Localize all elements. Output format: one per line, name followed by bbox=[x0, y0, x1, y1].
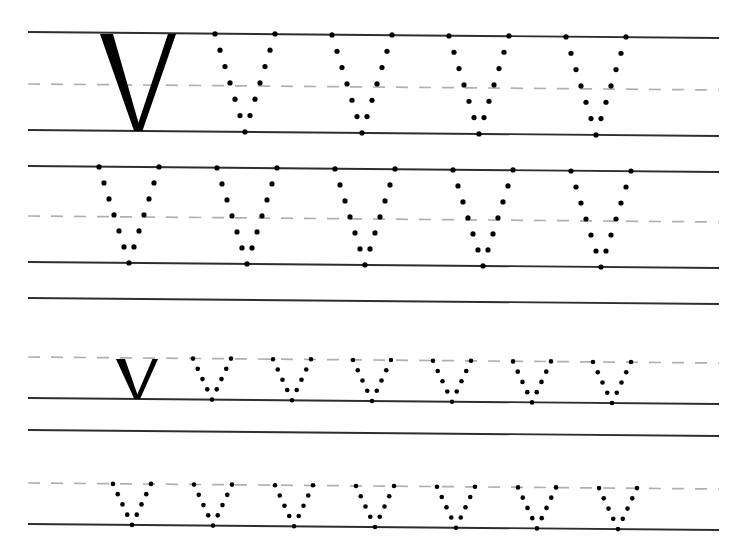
guide-dot bbox=[349, 98, 354, 103]
row-4-lowercase-practice bbox=[111, 482, 640, 532]
dotted-letter-guide bbox=[450, 167, 515, 268]
guide-dot bbox=[466, 99, 471, 104]
guide-dot-apex bbox=[370, 399, 375, 404]
guide-dot bbox=[369, 98, 374, 103]
guide-dot bbox=[613, 216, 618, 221]
guide-dot bbox=[106, 196, 111, 201]
guide-dot bbox=[374, 388, 379, 393]
guide-dot bbox=[294, 388, 299, 393]
guide-dot bbox=[252, 97, 257, 102]
guide-dot bbox=[337, 182, 342, 187]
guide-dot bbox=[229, 213, 234, 218]
guide-dot bbox=[389, 32, 394, 37]
guide-dot bbox=[247, 113, 252, 118]
guide-dot bbox=[311, 483, 316, 488]
guide-dot bbox=[272, 31, 277, 36]
guide-dot bbox=[384, 368, 389, 373]
worksheet-page bbox=[0, 0, 743, 541]
guide-dot bbox=[473, 484, 478, 489]
guide-dot bbox=[618, 200, 623, 205]
guide-dot bbox=[520, 380, 525, 385]
guide-dot bbox=[608, 232, 613, 237]
dotted-letter-guide bbox=[568, 168, 633, 269]
guide-dot bbox=[611, 517, 616, 522]
guide-dot bbox=[332, 166, 337, 171]
guide-dot bbox=[465, 215, 470, 220]
guide-dot bbox=[593, 248, 598, 253]
guide-dot bbox=[334, 49, 339, 54]
guide-dot bbox=[131, 244, 136, 249]
guide-dot bbox=[120, 502, 125, 507]
guide-dot bbox=[192, 482, 197, 487]
guide-dot bbox=[454, 389, 459, 394]
dotted-letter-guide bbox=[273, 483, 316, 529]
guide-dot bbox=[481, 115, 486, 120]
guide-dot bbox=[287, 514, 292, 519]
guide-dot bbox=[384, 49, 389, 54]
guide-dot bbox=[306, 493, 311, 498]
guide-dot bbox=[262, 64, 267, 69]
guide-dot-apex bbox=[598, 264, 603, 269]
guide-dot bbox=[219, 181, 224, 186]
guide-dot bbox=[237, 113, 242, 118]
guide-dot bbox=[116, 228, 121, 233]
guide-dot bbox=[534, 390, 539, 395]
guide-dot bbox=[628, 168, 633, 173]
guide-dot bbox=[215, 513, 220, 518]
guide-dot bbox=[459, 379, 464, 384]
dotted-letter-guide bbox=[354, 484, 397, 530]
guide-dot bbox=[435, 369, 440, 374]
guide-dot bbox=[269, 181, 274, 186]
guide-dot-apex bbox=[359, 130, 364, 135]
guide-dot bbox=[608, 83, 613, 88]
guide-dot bbox=[379, 378, 384, 383]
letter-stroke-right bbox=[136, 34, 176, 131]
guide-dot bbox=[471, 115, 476, 120]
guide-dot bbox=[191, 356, 196, 361]
guide-dot bbox=[387, 494, 392, 499]
guide-dot bbox=[606, 506, 611, 511]
guide-dot bbox=[282, 504, 287, 509]
guide-dot bbox=[364, 114, 369, 119]
solid-letter-model bbox=[116, 359, 158, 399]
guide-dot bbox=[136, 228, 141, 233]
guide-dot bbox=[490, 231, 495, 236]
guide-dot bbox=[224, 197, 229, 202]
guide-dot bbox=[525, 506, 530, 511]
guide-dot bbox=[196, 493, 201, 498]
guide-dot bbox=[451, 50, 456, 55]
guide-dot bbox=[469, 358, 474, 363]
guide-dot bbox=[629, 360, 634, 365]
guide-dot bbox=[625, 506, 630, 511]
guide-dot bbox=[635, 486, 640, 491]
guide-dot bbox=[232, 97, 237, 102]
guide-dot bbox=[445, 389, 450, 394]
guide-dot bbox=[464, 369, 469, 374]
guide-dot bbox=[367, 246, 372, 251]
guide-dot bbox=[389, 358, 394, 363]
guide-dot bbox=[274, 165, 279, 170]
guide-dot bbox=[450, 167, 455, 172]
guide-dot bbox=[141, 212, 146, 217]
guide-dot bbox=[601, 496, 606, 501]
guide-dot bbox=[486, 99, 491, 104]
guide-dot-apex bbox=[292, 524, 297, 529]
guide-dot bbox=[354, 114, 359, 119]
guide-dot bbox=[254, 229, 259, 234]
guide-dot bbox=[485, 247, 490, 252]
guide-dot bbox=[624, 370, 629, 375]
dotted-letter-guide bbox=[597, 486, 640, 532]
dotted-letter-guide bbox=[192, 482, 235, 528]
guide-dot bbox=[455, 183, 460, 188]
guide-dot bbox=[620, 517, 625, 522]
guide-dot bbox=[267, 48, 272, 53]
guide-dot bbox=[444, 505, 449, 510]
guide-dot bbox=[603, 248, 608, 253]
dotted-letter-guide bbox=[214, 165, 279, 266]
guide-dot bbox=[511, 359, 516, 364]
guide-dot bbox=[301, 504, 306, 509]
guide-dot bbox=[603, 100, 608, 105]
dotted-letter-guide bbox=[563, 34, 628, 137]
guide-dot bbox=[156, 164, 161, 169]
guide-dot bbox=[446, 33, 451, 38]
